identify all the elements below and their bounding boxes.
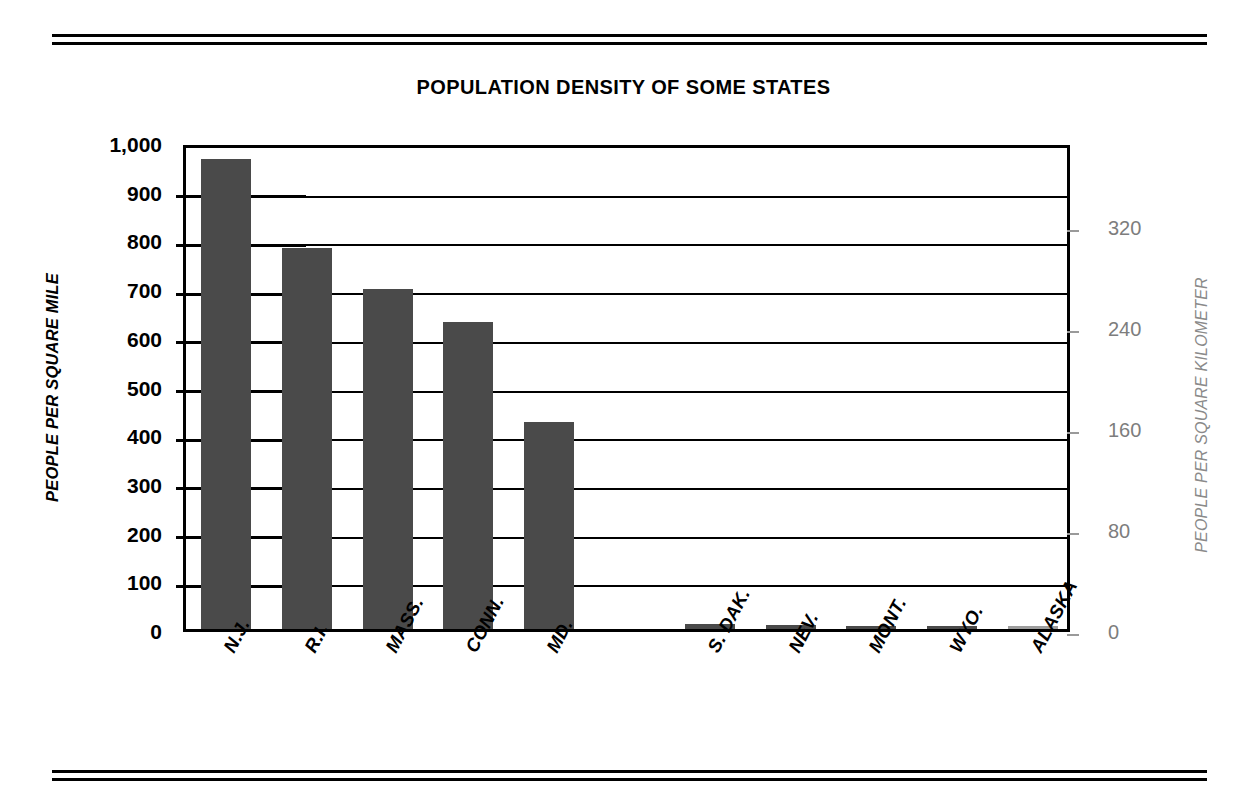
bar bbox=[524, 422, 574, 629]
y-tick-label-left: 600 bbox=[52, 328, 162, 352]
y-tick-left bbox=[176, 439, 186, 442]
x-tick-label: WYO. bbox=[945, 646, 965, 756]
y-tick-left bbox=[176, 390, 186, 393]
y-tick-left bbox=[176, 293, 186, 296]
y-tick-label-left: 1,000 bbox=[52, 133, 162, 157]
y-tick-label-right: 320 bbox=[1108, 217, 1188, 240]
x-tick-label: NEV. bbox=[784, 646, 804, 756]
bar bbox=[282, 248, 332, 629]
rule-line bbox=[52, 34, 1207, 37]
chart-title: POPULATION DENSITY OF SOME STATES bbox=[0, 76, 1247, 99]
x-tick-label: ALASKA bbox=[1026, 646, 1046, 756]
bar bbox=[443, 322, 493, 629]
y-tick-label-left: 500 bbox=[52, 377, 162, 401]
bar bbox=[201, 159, 251, 629]
bottom-double-rule bbox=[52, 770, 1207, 781]
y-tick-label-left: 900 bbox=[52, 182, 162, 206]
y-tick-right bbox=[1067, 331, 1079, 333]
y-tick-left bbox=[176, 195, 186, 198]
y-tick-label-left: 0 bbox=[52, 620, 162, 644]
y-tick-label-left: 200 bbox=[52, 523, 162, 547]
rule-line bbox=[52, 770, 1207, 773]
rule-line bbox=[52, 42, 1207, 45]
y-tick-right bbox=[1067, 533, 1079, 535]
bar bbox=[363, 289, 413, 629]
x-tick-label: N.J. bbox=[219, 646, 239, 756]
y-tick-label-left: 300 bbox=[52, 474, 162, 498]
x-tick-label: MONT. bbox=[864, 646, 884, 756]
top-double-rule bbox=[52, 34, 1207, 45]
chart-figure: POPULATION DENSITY OF SOME STATES PEOPLE… bbox=[0, 0, 1247, 809]
y-tick-label-right: 80 bbox=[1108, 520, 1188, 543]
y-tick-left bbox=[176, 487, 186, 490]
x-tick-label: MD. bbox=[542, 646, 562, 756]
y-tick-label-right: 160 bbox=[1108, 419, 1188, 442]
x-tick-label: R.I. bbox=[300, 646, 320, 756]
y-tick-right bbox=[1067, 230, 1079, 232]
x-tick-label: MASS. bbox=[381, 646, 401, 756]
y-tick-left bbox=[176, 536, 186, 539]
x-tick-label: S. DAK. bbox=[703, 646, 723, 756]
y-tick-left bbox=[176, 341, 186, 344]
x-tick-label: CONN. bbox=[461, 646, 481, 756]
y-axis-title-right-text: PEOPLE PER SQUARE KILOMETER bbox=[1193, 277, 1211, 553]
plot-area bbox=[183, 145, 1070, 632]
y-tick-label-right: 0 bbox=[1108, 621, 1188, 644]
y-tick-left bbox=[176, 244, 186, 247]
y-tick-label-right: 240 bbox=[1108, 318, 1188, 341]
y-tick-label-left: 700 bbox=[52, 279, 162, 303]
rule-line bbox=[52, 778, 1207, 781]
y-tick-label-left: 800 bbox=[52, 230, 162, 254]
bar-series bbox=[186, 148, 1067, 629]
y-tick-label-left: 100 bbox=[52, 571, 162, 595]
y-tick-label-left: 400 bbox=[52, 425, 162, 449]
y-tick-left bbox=[176, 585, 186, 588]
y-axis-title-right: PEOPLE PER SQUARE KILOMETER bbox=[1185, 190, 1219, 640]
y-tick-right bbox=[1067, 634, 1079, 636]
y-tick-right bbox=[1067, 432, 1079, 434]
